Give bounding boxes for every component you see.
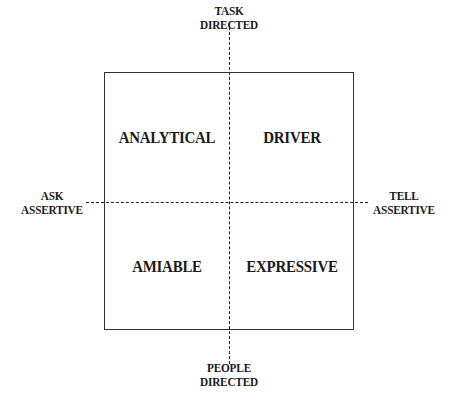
axis-label-right: TELL ASSERTIVE (368, 189, 440, 217)
quadrant-expressive: EXPRESSIVE (237, 257, 346, 277)
axis-label-bottom: PEOPLE DIRECTED (193, 361, 265, 389)
axis-label-left-line2: ASSERTIVE (16, 203, 88, 217)
axis-label-left: ASK ASSERTIVE (16, 189, 88, 217)
horizontal-axis-dashed (86, 202, 368, 203)
axis-label-right-line2: ASSERTIVE (368, 203, 440, 217)
quadrant-amiable: AMIABLE (112, 257, 221, 277)
axis-label-top: TASK DIRECTED (193, 4, 265, 32)
vertical-axis-dashed (229, 22, 230, 364)
axis-label-bottom-line2: DIRECTED (193, 375, 265, 389)
axis-label-bottom-line1: PEOPLE (193, 361, 265, 375)
axis-label-right-line1: TELL (368, 189, 440, 203)
axis-label-top-line2: DIRECTED (193, 18, 265, 32)
quadrant-driver: DRIVER (237, 128, 346, 148)
quadrant-analytical: ANALYTICAL (112, 128, 221, 148)
axis-label-left-line1: ASK (16, 189, 88, 203)
axis-label-top-line1: TASK (193, 4, 265, 18)
